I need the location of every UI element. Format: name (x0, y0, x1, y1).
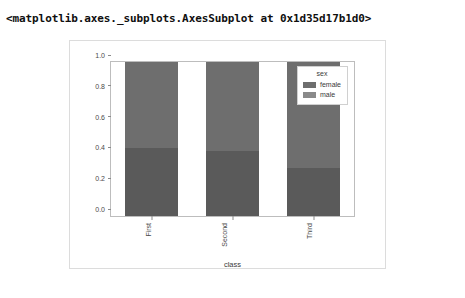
x-axis-label: class (111, 260, 354, 269)
y-axis-tick-label: 0.8 (95, 82, 111, 89)
legend-item-female: female (303, 80, 341, 89)
chart-legend: sexfemalemale (297, 66, 348, 105)
legend-label: female (320, 80, 341, 89)
bar-segment-male (125, 148, 178, 216)
notebook-output-cell: <matplotlib.axes._subplots.AxesSubplot a… (0, 0, 465, 298)
chart-axes: class 0.00.20.40.60.81.0FirstSecondThird… (110, 61, 355, 217)
x-axis-tick-mark (151, 216, 152, 220)
legend-swatch-male (303, 92, 316, 98)
y-axis-tick-label: 1.0 (95, 52, 111, 59)
bar-segment-female (125, 62, 178, 148)
legend-label: male (320, 90, 335, 99)
y-axis-tick-label: 0.0 (95, 206, 111, 213)
stacked-bar (206, 62, 259, 216)
x-axis-tick-mark (232, 216, 233, 220)
y-axis-tick-label: 0.4 (95, 144, 111, 151)
figure-panel: class 0.00.20.40.60.81.0FirstSecondThird… (69, 40, 386, 269)
bar-segment-male (287, 168, 340, 216)
y-axis-tick-label: 0.2 (95, 175, 111, 182)
legend-item-male: male (303, 90, 341, 99)
x-axis-tick-label: Third (306, 223, 313, 239)
legend-title: sex (303, 70, 341, 78)
x-axis-tick-mark (313, 216, 314, 220)
matplotlib-repr-text: <matplotlib.axes._subplots.AxesSubplot a… (6, 12, 371, 25)
y-axis-tick-label: 0.6 (95, 113, 111, 120)
x-axis-tick-label: Second (221, 223, 228, 247)
stacked-bar (125, 62, 178, 216)
x-axis-tick-label: First (145, 223, 152, 237)
bar-segment-male (206, 151, 259, 216)
bar-segment-female (206, 62, 259, 151)
legend-swatch-female (303, 82, 316, 88)
